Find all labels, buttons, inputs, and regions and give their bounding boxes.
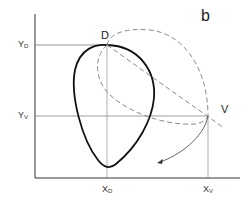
solid-loop-curve bbox=[74, 45, 154, 167]
axis-label-yd-sub: D bbox=[24, 43, 28, 49]
axis-label-yd: YD bbox=[18, 40, 28, 49]
axis-label-xv-sub: V bbox=[209, 188, 213, 194]
axis-label-yv: YV bbox=[18, 111, 28, 120]
panel-label: b bbox=[201, 7, 210, 25]
diagram-figure: b D V YD YV XD XV bbox=[0, 0, 250, 205]
diagram-canvas bbox=[0, 0, 250, 205]
dashed-diagonal-line bbox=[107, 45, 224, 128]
dashed-upper-arc bbox=[107, 30, 208, 116]
arrowhead-icon bbox=[157, 159, 163, 164]
axis-label-xv: XV bbox=[203, 185, 213, 194]
point-v-label: V bbox=[221, 103, 228, 115]
axis-label-yv-sub: V bbox=[24, 114, 28, 120]
axis-label-xd: XD bbox=[102, 185, 112, 194]
point-d-label: D bbox=[101, 29, 109, 41]
axis-label-xd-sub: D bbox=[108, 188, 112, 194]
